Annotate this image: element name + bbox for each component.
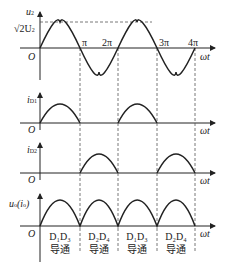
y-label-uo: uo(io) xyxy=(9,199,29,209)
conduction-label-4: D₂D₄导通 xyxy=(158,230,194,256)
tick-pi: π xyxy=(82,38,87,48)
amplitude-label: √2U2 xyxy=(14,24,35,34)
origin-label: O xyxy=(28,175,35,185)
x-label-wt: ωt xyxy=(200,229,210,239)
origin-label: O xyxy=(28,125,35,135)
conduction-label-1: D₁D₃导通 xyxy=(42,230,78,256)
origin-label: O xyxy=(28,52,35,62)
iD1-wave xyxy=(40,104,157,123)
x-label-wt: ωt xyxy=(200,126,210,136)
x-label-wt: ωt xyxy=(200,176,210,186)
conduction-label-2: D₂D₄导通 xyxy=(81,230,117,256)
conduction-label-3: D₁D₃导通 xyxy=(119,230,155,256)
y-label-iD1: iD1 xyxy=(27,95,37,105)
x-label-wt: ωt xyxy=(200,52,210,62)
origin-label: O xyxy=(28,229,35,239)
tick-3pi: 3π xyxy=(159,38,169,48)
y-label-iD2: iD2 xyxy=(27,145,37,155)
tick-4pi: 4π xyxy=(188,38,198,48)
iD2-wave xyxy=(80,154,195,173)
y-label-u2: u2 xyxy=(26,7,34,17)
uo-wave xyxy=(40,200,195,226)
tick-2pi: 2π xyxy=(102,38,112,48)
